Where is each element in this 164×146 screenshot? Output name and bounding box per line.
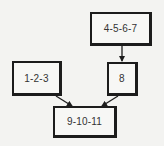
node-8: 8 xyxy=(107,62,138,96)
node-label: 4-5-6-7 xyxy=(104,23,138,34)
node-label: 1-2-3 xyxy=(24,73,48,84)
node-label: 8 xyxy=(119,73,125,84)
node-1-2-3: 1-2-3 xyxy=(12,61,62,96)
diagram-canvas: 1-2-3 4-5-6-7 8 9-10-11 xyxy=(0,0,164,146)
edge-123-to-91011 xyxy=(56,96,72,106)
node-label: 9-10-11 xyxy=(67,116,102,127)
node-4-5-6-7: 4-5-6-7 xyxy=(90,12,152,46)
edge-8-to-91011 xyxy=(102,96,118,106)
node-9-10-11: 9-10-11 xyxy=(53,106,117,138)
